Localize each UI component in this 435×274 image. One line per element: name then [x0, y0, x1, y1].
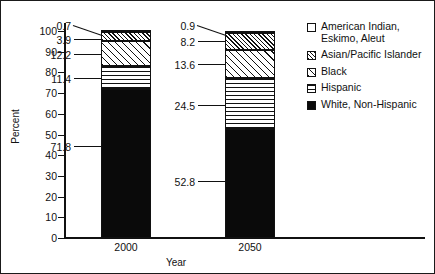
- segment-asian-pacific-islander-2050[interactable]: [225, 33, 275, 50]
- callout-2050-black: 13.6: [157, 59, 195, 71]
- y-axis-title: Percent: [10, 87, 21, 167]
- leader-2050-hispanic: [198, 105, 225, 106]
- x-tick-label-2050: 2050: [210, 241, 290, 253]
- segment-black-2050[interactable]: [225, 50, 275, 78]
- legend-item-asian-pacific-islander[interactable]: Asian/Pacific Islander: [307, 49, 433, 61]
- legend-label-line2: Eskimo, Aleut: [321, 32, 385, 44]
- callout-2000-white: 71.8: [37, 141, 71, 153]
- horizontal-lines-swatch-icon: [307, 84, 316, 93]
- segment-white-non-hispanic-2050[interactable]: [225, 129, 275, 238]
- leader-2050-black: [198, 64, 225, 65]
- leader-2000-asian: [74, 39, 101, 40]
- legend: American Indian, Eskimo, Aleut Asian/Pac…: [307, 21, 433, 115]
- y-tick-label-20: 20: [23, 192, 57, 202]
- y-tick-label-60: 60: [23, 109, 57, 119]
- bar-2000[interactable]: [101, 23, 151, 238]
- chart-figure: 100 90 80 70 60 50 40 30 20 10 0 Percent: [0, 0, 435, 274]
- y-tick-label-0: 0: [23, 233, 57, 243]
- x-tick-label-2000: 2000: [86, 241, 166, 253]
- legend-item-american-indian[interactable]: American Indian, Eskimo, Aleut: [307, 21, 433, 44]
- callout-2050-white: 52.8: [157, 176, 195, 188]
- y-tick-label-30: 30: [23, 171, 57, 181]
- y-tick-label-50: 50: [23, 130, 57, 140]
- white-swatch-icon: [307, 23, 316, 32]
- leader-2000-black: [74, 54, 101, 55]
- legend-label-hispanic: Hispanic: [321, 82, 361, 94]
- legend-label-asian-pacific-islander: Asian/Pacific Islander: [321, 49, 421, 61]
- leader-2050-white: [198, 181, 225, 182]
- y-tick-label-70: 70: [23, 88, 57, 98]
- leader-2050-asian: [198, 41, 225, 42]
- legend-label-line1: American Indian,: [321, 20, 400, 32]
- leader-2000-white: [74, 146, 101, 147]
- segment-asian-pacific-islander-2000[interactable]: [101, 32, 151, 40]
- cross-hatch-swatch-icon: [307, 51, 316, 60]
- callout-2000-american-indian: 0.7: [41, 20, 71, 32]
- segment-black-2000[interactable]: [101, 41, 151, 66]
- legend-label-american-indian: American Indian, Eskimo, Aleut: [321, 21, 400, 44]
- segment-hispanic-2050[interactable]: [225, 78, 275, 129]
- y-tick-label-10: 10: [23, 212, 57, 222]
- plot-area: [64, 23, 301, 238]
- callout-2050-asian: 8.2: [161, 36, 195, 48]
- segment-hispanic-2000[interactable]: [101, 66, 151, 90]
- legend-item-white-non-hispanic[interactable]: White, Non-Hispanic: [307, 99, 433, 111]
- legend-label-white-non-hispanic: White, Non-Hispanic: [321, 99, 417, 111]
- callout-2000-hispanic: 11.4: [37, 73, 71, 85]
- callout-2000-black: 12.2: [37, 49, 71, 61]
- callout-2000-asian: 3.9: [41, 34, 71, 46]
- bar-2050[interactable]: [225, 23, 275, 238]
- y-tick-mark-0: [58, 238, 64, 239]
- callout-2050-american-indian: 0.9: [165, 20, 195, 32]
- diagonal-hatch-swatch-icon: [307, 68, 316, 77]
- legend-label-black: Black: [321, 66, 347, 78]
- segment-white-non-hispanic-2000[interactable]: [101, 89, 151, 238]
- callout-2050-hispanic: 24.5: [157, 100, 195, 112]
- segment-american-indian-2050[interactable]: [225, 31, 275, 33]
- legend-item-hispanic[interactable]: Hispanic: [307, 82, 433, 94]
- solid-black-swatch-icon: [307, 101, 316, 110]
- legend-item-black[interactable]: Black: [307, 66, 433, 78]
- leader-2000-hispanic: [74, 78, 101, 79]
- x-axis-title: Year: [106, 257, 246, 268]
- segment-american-indian-2000[interactable]: [101, 30, 151, 32]
